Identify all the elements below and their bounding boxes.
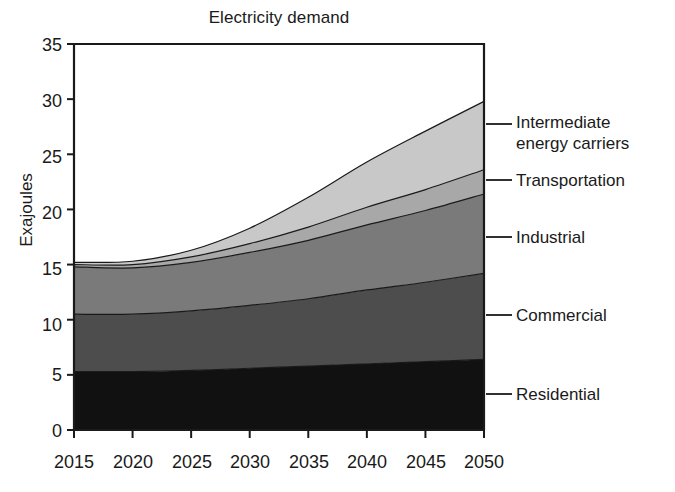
legend-label-industrial: Industrial [516, 227, 585, 248]
legend-label-residential: Residential [516, 384, 600, 405]
legend-leader-lines [486, 124, 512, 394]
legend-label-commercial: Commercial [516, 305, 607, 326]
chart-figure: Electricity demand Exajoules 35 30 25 20… [0, 0, 675, 492]
legend-label-transportation: Transportation [516, 170, 625, 191]
legend-label-intermediate-energy-carriers: Intermediate energy carriers [516, 112, 629, 154]
stacked-areas [74, 101, 484, 430]
